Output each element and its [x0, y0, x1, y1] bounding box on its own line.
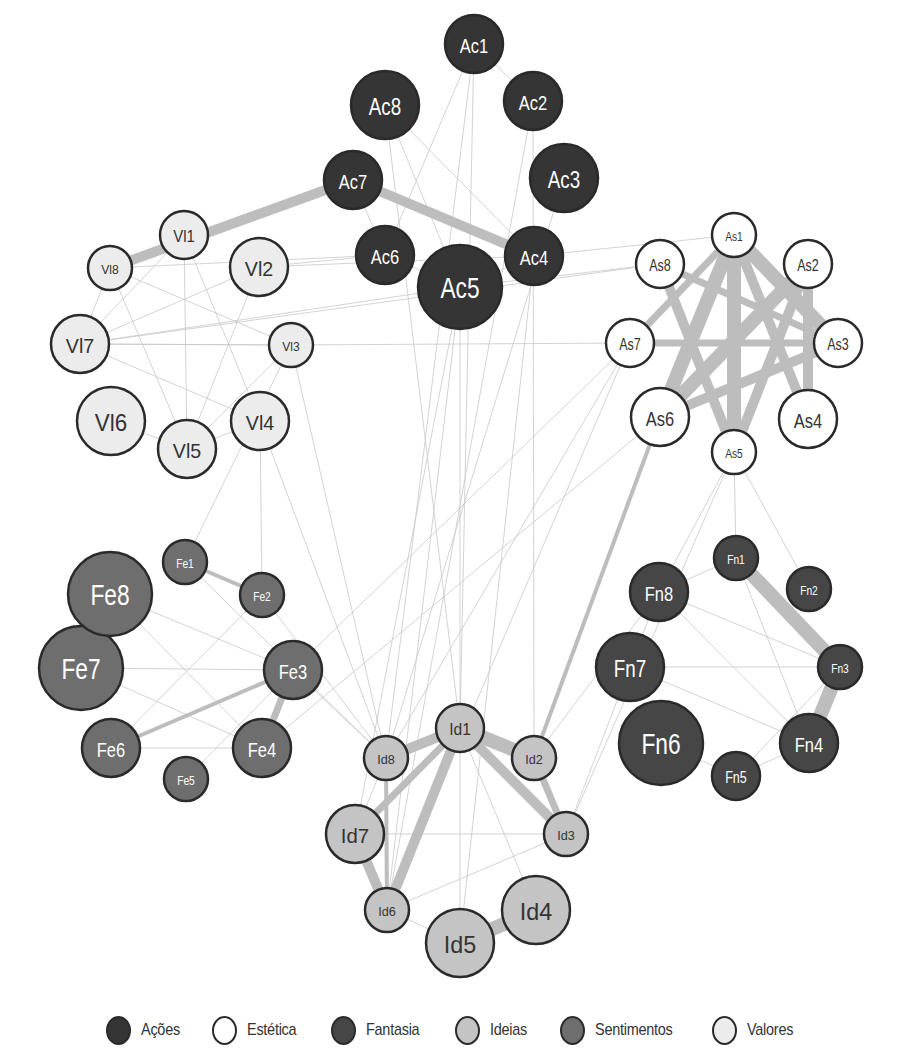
node-fn3: Fn3: [818, 645, 862, 689]
node-label: As3: [827, 336, 849, 353]
node-label: Fe7: [61, 653, 100, 685]
node-id7: Id7: [326, 805, 384, 863]
node-ac5: Ac5: [418, 245, 502, 329]
node-id3: Id3: [544, 812, 588, 856]
node-label: As6: [646, 407, 674, 430]
node-vl8: Vl8: [88, 246, 132, 290]
node-as3: As3: [814, 319, 862, 367]
node-label: Id3: [557, 828, 575, 843]
node-label: Ac3: [548, 166, 580, 193]
nodes-layer: Ac1Ac2Ac3Ac4Ac5Ac6Ac7Ac8Vl1Vl2Vl3Vl4Vl5V…: [39, 15, 862, 977]
legend-item-valores: Valores: [712, 1016, 801, 1045]
node-label: Ac7: [339, 170, 367, 193]
node-ac2: Ac2: [504, 72, 562, 130]
node-as5: As5: [712, 430, 756, 474]
node-label: Vl4: [246, 411, 275, 434]
node-label: Fe6: [97, 738, 125, 761]
network-graph: Ac1Ac2Ac3Ac4Ac5Ac6Ac7Ac8Vl1Vl2Vl3Vl4Vl5V…: [0, 0, 907, 1000]
node-label: Vl3: [282, 339, 300, 354]
node-label: Fe1: [176, 556, 194, 571]
node-ac1: Ac1: [445, 15, 503, 73]
node-id1: Id1: [436, 704, 484, 752]
legend-swatch-estetica: [212, 1016, 237, 1045]
edge-ac2-id2: [533, 101, 534, 758]
node-fe7: Fe7: [39, 626, 123, 710]
node-label: As4: [794, 409, 823, 432]
node-vl1: Vl1: [160, 211, 208, 259]
node-fe4: Fe4: [233, 719, 291, 777]
edge-vl3-as7: [291, 343, 630, 345]
node-label: Vl8: [101, 262, 119, 277]
edge-vl1-vl5: [184, 235, 187, 449]
node-label: Fn5: [725, 769, 747, 786]
node-fe5: Fe5: [164, 757, 208, 801]
legend-item-acoes: Ações: [106, 1016, 187, 1045]
legend-label: Estética: [247, 1020, 296, 1040]
legend-label: Fantasia: [366, 1020, 419, 1040]
node-vl2: Vl2: [230, 238, 288, 296]
node-fe8: Fe8: [68, 552, 152, 636]
node-label: As7: [619, 336, 641, 353]
legend-item-sentimentos: Sentimentos: [560, 1016, 686, 1045]
node-ac8: Ac8: [351, 71, 419, 139]
node-ac3: Ac3: [530, 144, 598, 212]
node-label: Vl5: [173, 439, 201, 462]
node-id5: Id5: [426, 909, 494, 977]
node-vl7: Vl7: [51, 315, 109, 373]
node-fn4: Fn4: [780, 714, 838, 772]
node-id2: Id2: [512, 736, 556, 780]
node-fe1: Fe1: [163, 540, 207, 584]
node-label: Fe3: [279, 660, 307, 683]
node-label: Id8: [377, 752, 395, 767]
node-label: Fn7: [614, 655, 646, 682]
node-label: Vl7: [66, 334, 94, 357]
node-label: Ac8: [369, 93, 401, 120]
edge-as7-id8: [386, 343, 630, 758]
node-vl6: Vl6: [77, 387, 145, 455]
edges-layer: [80, 44, 840, 943]
node-fn2: Fn2: [787, 567, 831, 611]
node-fn5: Fn5: [712, 752, 760, 800]
edge-as7-fe3: [293, 343, 630, 670]
node-label: Vl1: [173, 228, 195, 245]
node-label: Id2: [525, 752, 543, 767]
node-label: Id1: [449, 721, 471, 738]
node-label: Fn3: [831, 661, 849, 676]
node-fe2: Fe2: [240, 573, 284, 617]
node-label: As8: [649, 257, 671, 274]
legend-item-fantasia: Fantasia: [331, 1016, 429, 1045]
legend-item-estetica: Estética: [212, 1016, 305, 1045]
node-label: As2: [797, 257, 819, 274]
legend-swatch-ideias: [455, 1016, 480, 1045]
node-label: Fe4: [248, 738, 277, 761]
node-label: As5: [725, 446, 743, 461]
node-label: Vl6: [95, 409, 127, 436]
node-label: Fn8: [645, 582, 673, 605]
node-fe6: Fe6: [82, 719, 140, 777]
node-label: Fn2: [800, 583, 818, 598]
legend-label: Valores: [747, 1020, 793, 1040]
node-label: Fe8: [90, 579, 129, 611]
node-as4: As4: [779, 390, 837, 448]
edge-vl3-vl7: [80, 344, 291, 345]
node-id4: Id4: [502, 876, 570, 944]
node-as8: As8: [636, 240, 684, 288]
node-fn6: Fn6: [619, 701, 703, 785]
node-ac6: Ac6: [356, 226, 414, 284]
edge-ac4-id5: [460, 256, 534, 943]
node-as7: As7: [606, 319, 654, 367]
node-label: Ac4: [520, 246, 549, 269]
node-vl4: Vl4: [231, 392, 289, 450]
node-label: Fn6: [641, 728, 680, 760]
node-label: Fn1: [727, 552, 745, 567]
node-label: Ac6: [371, 245, 399, 268]
legend-swatch-sentimentos: [560, 1016, 585, 1045]
node-ac7: Ac7: [324, 151, 382, 209]
node-as2: As2: [784, 240, 832, 288]
node-as6: As6: [631, 388, 689, 446]
node-as1: As1: [712, 213, 756, 257]
node-fn7: Fn7: [596, 633, 664, 701]
node-vl3: Vl3: [269, 323, 313, 367]
node-ac4: Ac4: [505, 227, 563, 285]
node-label: Id7: [341, 824, 369, 847]
